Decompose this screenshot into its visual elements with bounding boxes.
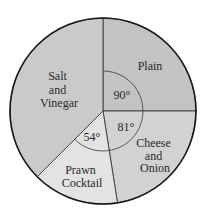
label-plain: Plain: [138, 59, 163, 73]
label-prawn-cocktail: Prawn Cocktail: [62, 163, 103, 190]
pie-chart: Plain Salt and Vinegar Cheese and Onion …: [0, 0, 203, 214]
angle-label-plain: 90°: [114, 88, 131, 102]
angle-label-cheese-and-onion: 81°: [118, 120, 135, 134]
angle-label-prawn-cocktail: 54°: [84, 130, 101, 144]
